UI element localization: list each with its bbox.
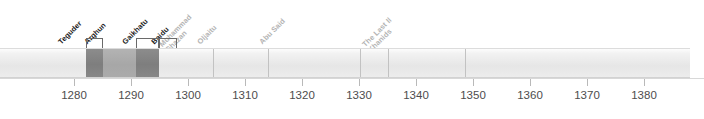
leader-vertical-1 [176,38,177,48]
leader-horizontal [159,38,177,39]
leader-bracket-baidu [159,38,177,48]
axis-tick-1380 [644,79,645,86]
axis-tick-label-1340: 1340 [403,89,429,101]
timeline-divider-4 [465,48,466,78]
axis-tick-1360 [530,79,531,86]
reign-label-abusaid: Abu Said [258,17,287,46]
axis-tick-1300 [188,79,189,86]
axis-tick-label-1320: 1320 [289,89,315,101]
leader-horizontal [136,38,159,39]
timeline-divider-3 [388,48,389,78]
timeline-segment-arghun [103,48,136,78]
reign-label-line1: Abu Said [257,17,287,47]
leader-horizontal [86,38,103,39]
axis-tick-1330 [359,79,360,86]
axis-tick-label-1350: 1350 [460,89,486,101]
axis-tick-1290 [131,79,132,86]
reign-label-oljaitu: Oljaitu [196,24,219,47]
axis-tick-label-1330: 1330 [346,89,372,101]
leader-vertical-0 [159,38,160,48]
timeline-bar-top-edge [0,48,690,49]
timeline-chart: TeguderArghunGaikhatuBaiduMuhammadGhazan… [0,0,704,119]
timeline-bar [0,48,690,78]
axis-tick-label-1360: 1360 [517,89,543,101]
timeline-segment-pre [0,48,86,78]
axis-tick-1370 [587,79,588,86]
timeline-segment-gaikhatu [136,48,159,78]
leader-vertical-0 [86,38,87,48]
axis-tick-label-1290: 1290 [118,89,144,101]
axis-line [0,78,704,79]
timeline-divider-2 [360,48,361,78]
axis-tick-1320 [302,79,303,86]
axis-tick-label-1280: 1280 [61,89,87,101]
axis-tick-label-1300: 1300 [175,89,201,101]
leader-vertical-1 [102,38,103,48]
leader-bracket-teguder [86,38,103,48]
timeline-segment-teguder [86,48,103,78]
axis-tick-1340 [416,79,417,86]
reign-label-line1: Teguder [56,19,83,46]
axis-tick-label-1380: 1380 [631,89,657,101]
axis-tick-label-1370: 1370 [574,89,600,101]
axis-tick-1280 [74,79,75,86]
timeline-divider-0 [213,48,214,78]
leader-bracket-gaikhatu [136,38,159,48]
axis-tick-1350 [473,79,474,86]
timeline-segment-post [159,48,690,78]
reign-label-line1: Oljaitu [195,23,218,46]
reign-label-teguder: Teguder [57,20,84,47]
axis-tick-label-1310: 1310 [232,89,258,101]
timeline-divider-1 [268,48,269,78]
leader-vertical-0 [136,38,137,48]
axis-tick-1310 [245,79,246,86]
